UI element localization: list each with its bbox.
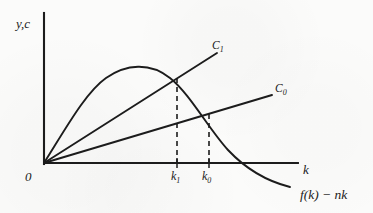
curve-label-c0-subscript: 0 bbox=[283, 88, 287, 97]
y-axis-label: y,c bbox=[14, 16, 30, 31]
x-axis-label: k bbox=[303, 162, 309, 177]
consumption-ray-c1 bbox=[44, 53, 217, 163]
tick-label-k1: k1 bbox=[171, 169, 180, 185]
curve-label-c1: C1 bbox=[212, 39, 224, 54]
economics-diagram: y,c 0 k k1 k0 C1 C0 bbox=[0, 0, 373, 213]
tick-label-k0: k0 bbox=[202, 169, 211, 185]
consumption-ray-c0 bbox=[44, 95, 272, 163]
tick-label-k1-subscript: 1 bbox=[176, 176, 180, 185]
svg-text:C0: C0 bbox=[275, 82, 287, 97]
svg-text:k1: k1 bbox=[171, 169, 180, 185]
tick-label-k0-subscript: 0 bbox=[207, 176, 211, 185]
function-label: f(k) − nk bbox=[300, 187, 348, 202]
curve-label-c0: C0 bbox=[275, 82, 287, 97]
diagram-canvas: y,c 0 k k1 k0 C1 C0 bbox=[0, 0, 373, 213]
svg-text:k0: k0 bbox=[202, 169, 211, 185]
svg-text:C1: C1 bbox=[212, 39, 224, 54]
origin-label: 0 bbox=[25, 169, 32, 184]
curve-label-c1-subscript: 1 bbox=[220, 45, 224, 54]
